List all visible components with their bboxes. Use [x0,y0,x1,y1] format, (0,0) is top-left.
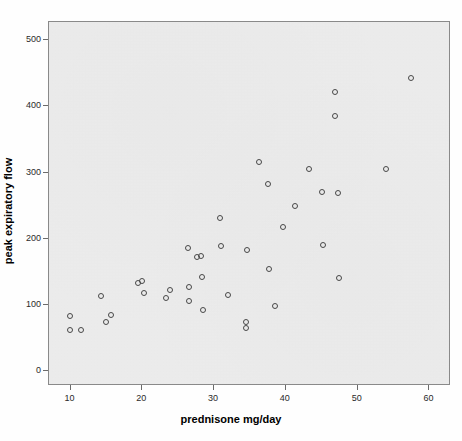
data-point [200,307,206,313]
data-point [103,319,109,325]
data-point [139,278,145,284]
data-point [336,275,342,281]
data-point [256,159,262,165]
data-point [225,292,231,298]
x-tick-label: 20 [136,393,146,403]
data-point [98,293,104,299]
x-tick-mark [70,385,71,390]
data-point [292,203,298,209]
x-tick-mark [141,385,142,390]
data-point [67,313,73,319]
data-point [67,327,73,333]
data-point [163,295,169,301]
y-tick-label: 400 [26,100,41,110]
data-point [78,327,84,333]
x-tick-label: 30 [208,393,218,403]
x-axis-title: prednisone mg/day [0,413,462,425]
data-point [185,245,191,251]
data-point [141,290,147,296]
x-tick-label: 40 [280,393,290,403]
data-point [218,243,224,249]
x-tick-label: 10 [65,393,75,403]
data-point [198,253,204,259]
scatter-plot-figure: 0100200300400500 102030405060 peak expir… [0,0,462,441]
data-point [243,325,249,331]
data-point [199,274,205,280]
x-tick-mark [428,385,429,390]
x-tick-mark [285,385,286,390]
data-point [186,298,192,304]
plot-area [48,21,450,385]
y-tick-label: 200 [26,233,41,243]
x-tick-label: 60 [423,393,433,403]
data-point [217,215,223,221]
data-point [408,75,414,81]
data-point [186,284,192,290]
data-point [332,89,338,95]
data-point [272,303,278,309]
y-tick-label: 100 [26,299,41,309]
data-point [320,242,326,248]
x-tick-label: 50 [352,393,362,403]
y-tick-label: 500 [26,34,41,44]
x-tick-mark [213,385,214,390]
data-point [265,181,271,187]
data-point [108,312,114,318]
data-point [383,166,389,172]
y-axis-title: peak expiratory flow [2,158,14,264]
data-point [244,247,250,253]
data-point [167,287,173,293]
data-point [335,190,341,196]
data-point [306,166,312,172]
data-point [319,189,325,195]
x-tick-mark [357,385,358,390]
paper-texture-overlay [49,22,449,384]
data-point [266,266,272,272]
data-point [332,113,338,119]
y-tick-label: 0 [36,365,41,375]
data-point [280,224,286,230]
y-tick-label: 300 [26,167,41,177]
